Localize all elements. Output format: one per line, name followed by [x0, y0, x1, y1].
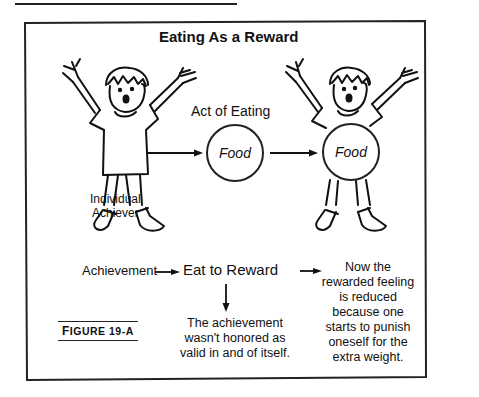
figure-caption-initial: F	[62, 324, 70, 338]
food-circle-1: Food	[206, 124, 264, 182]
consequence-right-line: rewarded feeling	[318, 275, 418, 290]
figure-caption: FIGURE 19-A	[58, 321, 138, 341]
flow-achievement: Achievement	[82, 263, 157, 278]
consequence-down-line: wasn't honored as	[170, 331, 300, 346]
consequence-down-note: The achievement wasn't honored as valid …	[170, 316, 300, 361]
consequence-down-line: The achievement	[170, 316, 300, 331]
consequence-right-line: is reduced	[318, 290, 418, 305]
consequence-right-line: extra weight.	[318, 350, 418, 365]
individual-achiever-line-2: Achiever	[90, 206, 141, 220]
individual-achiever-line-1: Individual	[90, 192, 141, 206]
consequence-right-note: Now the rewarded feeling is reduced beca…	[318, 260, 418, 365]
consequence-right-line: starts to punish	[318, 320, 418, 335]
food-circle-2: Food	[322, 123, 380, 181]
food-label-2: Food	[335, 144, 367, 160]
flow-eat-to-reward: Eat to Reward	[183, 261, 278, 278]
food-label-1: Food	[219, 145, 251, 161]
consequence-right-line: because one	[318, 305, 418, 320]
act-of-eating-label: Act of Eating	[191, 103, 270, 119]
consequence-right-line: Now the	[318, 260, 418, 275]
individual-achiever-label: Individual Achiever	[90, 192, 141, 220]
figure-caption-rest: IGURE 19-A	[70, 325, 134, 337]
consequence-down-line: valid in and of itself.	[170, 346, 300, 361]
diagram-title: Eating As a Reward	[159, 28, 298, 45]
consequence-right-line: oneself for the	[318, 335, 418, 350]
